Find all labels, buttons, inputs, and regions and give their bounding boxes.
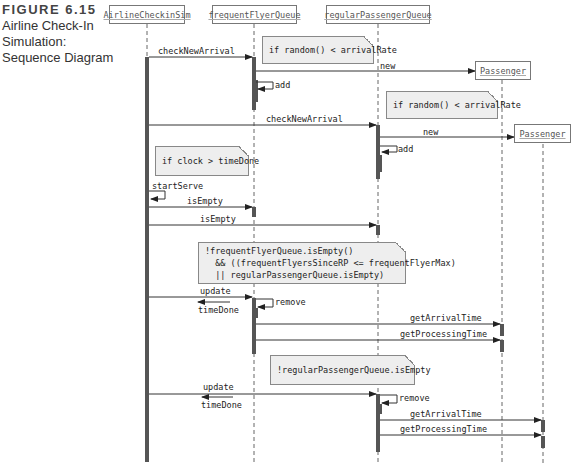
- message-new: new: [380, 61, 395, 71]
- message-update: update: [200, 286, 231, 296]
- object-frequent-flyer-queue: frequentFlyerQueue: [212, 5, 297, 24]
- message-remove: remove: [275, 297, 306, 307]
- object-label: regularPassengerQueue: [324, 10, 431, 20]
- note-arrival-condition-rp: if random() < arrivalRate: [386, 91, 498, 119]
- note-arrival-condition-ff: if random() < arrivalRate: [262, 36, 374, 64]
- message-check-new-arrival: checkNewArrival: [158, 46, 235, 56]
- message-get-processing-time: getProcessingTime: [400, 424, 487, 434]
- message-get-arrival-time: getArrivalTime: [410, 409, 482, 419]
- object-label: AirlineCheckinSim: [104, 10, 191, 20]
- object-label: frequentFlyerQueue: [208, 10, 300, 20]
- object-label: Passenger: [480, 66, 526, 76]
- note-clock-condition: if clock > timeDone: [155, 146, 249, 176]
- message-is-empty: isEmpty: [187, 196, 223, 206]
- note-serve-frequent-flyer-condition: !frequentFlyerQueue.isEmpty() && ((frequ…: [198, 242, 406, 284]
- object-regular-passenger-queue: regularPassengerQueue: [326, 5, 430, 24]
- object-airline-checkin-sim: AirlineCheckinSim: [109, 5, 185, 24]
- message-time-done: timeDone: [201, 400, 242, 410]
- message-update: update: [203, 382, 234, 392]
- message-is-empty: isEmpty: [200, 214, 236, 224]
- message-add: add: [275, 80, 290, 90]
- message-new: new: [423, 127, 438, 137]
- message-add: add: [398, 144, 413, 154]
- message-get-processing-time: getProcessingTime: [400, 329, 487, 339]
- message-check-new-arrival: checkNewArrival: [266, 114, 343, 124]
- object-passenger-2: Passenger: [514, 124, 571, 143]
- message-remove: remove: [399, 393, 430, 403]
- note-serve-regular-condition: !regularPassengerQueue.isEmpty: [270, 355, 415, 385]
- message-time-done: timeDone: [198, 305, 239, 315]
- object-passenger-1: Passenger: [475, 61, 531, 80]
- message-get-arrival-time: getArrivalTime: [410, 313, 482, 323]
- object-label: Passenger: [519, 129, 565, 139]
- message-start-serve: startServe: [152, 181, 203, 191]
